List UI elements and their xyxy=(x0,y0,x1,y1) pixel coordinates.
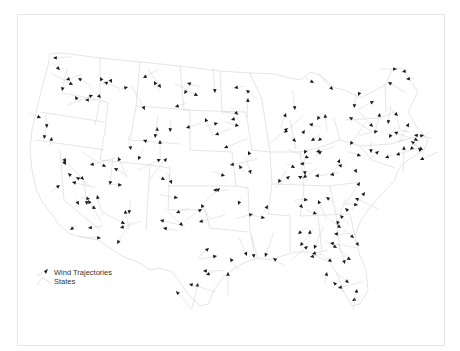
wind-arrow-icon xyxy=(124,210,128,214)
wind-arrow-icon xyxy=(312,251,316,255)
wind-arrow-icon xyxy=(117,240,121,244)
wind-arrow-icon xyxy=(293,106,297,110)
wind-arrow-icon xyxy=(283,113,286,117)
wind-arrow-icon xyxy=(72,181,76,185)
wind-arrow-icon xyxy=(128,210,132,214)
wind-arrow-icon xyxy=(301,130,305,134)
wind-arrow-icon xyxy=(388,82,392,86)
wind-arrow-icon xyxy=(300,162,304,166)
wind-arrow-icon xyxy=(389,134,392,138)
wind-arrow-icon xyxy=(387,120,391,124)
wind-arrow-icon xyxy=(336,221,339,225)
wind-arrow-icon xyxy=(338,164,342,168)
wind-arrow-icon xyxy=(315,174,319,178)
wind-arrow-icon xyxy=(231,117,235,120)
legend-item-wind-trajectories: Wind Trajectories xyxy=(36,268,112,277)
wind-arrow-icon xyxy=(199,219,203,223)
wind-arrow-icon xyxy=(158,140,162,144)
wind-arrow-icon xyxy=(70,226,74,230)
wind-arrow-icon xyxy=(402,146,406,150)
wind-arrow-icon xyxy=(309,123,313,127)
wind-arrow-icon xyxy=(354,289,358,293)
wind-arrow-icon xyxy=(61,87,65,91)
wind-arrow-icon xyxy=(304,198,308,202)
wind-arrow-icon xyxy=(396,152,400,155)
wind-arrow-icon xyxy=(128,146,132,150)
wind-arrow-icon xyxy=(198,209,202,213)
wind-arrow-icon xyxy=(102,163,106,167)
wind-arrow-icon xyxy=(246,98,250,102)
wind-arrow-icon xyxy=(265,253,268,257)
wind-arrow-icon xyxy=(157,84,161,88)
wind-arrow-icon xyxy=(324,272,328,276)
wind-arrow-icon xyxy=(300,242,304,246)
wind-arrow-icon xyxy=(45,124,49,128)
wind-arrow-icon xyxy=(291,165,295,168)
wind-arrow-icon xyxy=(124,86,128,90)
wind-arrow-icon xyxy=(353,104,357,108)
wind-arrow-icon xyxy=(88,226,92,230)
wind-arrow-icon xyxy=(402,69,406,73)
wind-arrow-icon xyxy=(221,173,225,176)
wind-arrow-icon xyxy=(174,196,178,200)
wind-arrow-icon xyxy=(304,246,308,250)
wind-arrow-icon xyxy=(377,113,381,117)
wind-arrow-icon xyxy=(120,225,124,228)
wind-arrow-icon xyxy=(310,79,314,83)
wind-arrow-icon xyxy=(286,176,290,180)
wind-arrow-icon xyxy=(317,116,321,120)
polygon-icon xyxy=(36,277,52,286)
wind-arrow-icon xyxy=(298,230,302,234)
wind-arrow-icon xyxy=(374,130,378,134)
wind-arrow-icon xyxy=(175,104,179,107)
wind-arrow-icon xyxy=(96,195,100,199)
wind-arrow-icon xyxy=(78,78,82,82)
wind-arrow-icon xyxy=(203,269,207,273)
wind-arrow-icon xyxy=(214,122,218,126)
wind-arrow-icon xyxy=(235,123,239,126)
wind-arrow-icon xyxy=(342,260,345,264)
wind-arrow-icon xyxy=(303,171,307,175)
wind-arrow-icon xyxy=(393,67,397,71)
wind-arrow-icon xyxy=(97,236,101,240)
wind-arrow-icon xyxy=(324,114,328,118)
wind-arrow-icon xyxy=(334,232,338,236)
legend-label: Wind Trajectories xyxy=(54,268,112,277)
wind-arrow-icon xyxy=(411,141,415,145)
wind-arrow-icon xyxy=(53,56,57,60)
wind-arrow-icon xyxy=(234,86,238,90)
wind-arrow-icon xyxy=(118,183,122,187)
wind-arrow-icon xyxy=(76,177,80,181)
wind-arrow-icon xyxy=(85,201,89,205)
arrow-icon xyxy=(36,268,52,277)
wind-arrow-icon xyxy=(213,89,217,93)
wind-arrow-icon xyxy=(354,169,357,173)
wind-arrow-icon xyxy=(163,158,167,162)
wind-arrow-icon xyxy=(278,179,282,183)
wind-arrow-icon xyxy=(213,255,217,259)
wind-arrow-icon xyxy=(357,153,361,156)
wind-arrow-icon xyxy=(361,192,365,196)
wind-arrow-icon xyxy=(186,125,190,128)
wind-arrow-icon xyxy=(239,165,243,169)
us-map xyxy=(0,0,460,351)
wind-arrow-icon xyxy=(350,141,354,145)
wind-arrow-icon xyxy=(414,137,418,141)
wind-arrow-icon xyxy=(163,227,167,231)
wind-arrow-icon xyxy=(56,185,60,189)
wind-arrow-icon xyxy=(161,177,165,180)
map-legend: Wind Trajectories States xyxy=(36,268,112,286)
wind-arrow-icon xyxy=(326,197,330,201)
wind-arrow-icon xyxy=(114,168,118,172)
wind-arrow-icon xyxy=(90,162,94,166)
wind-arrow-icon xyxy=(318,137,322,141)
wind-arrow-icon xyxy=(189,283,193,287)
wind-arrow-icon xyxy=(75,96,79,100)
wind-arrow-icon xyxy=(375,151,379,155)
wind-arrow-icon xyxy=(49,137,53,141)
wind-arrow-icon xyxy=(261,215,265,219)
wind-arrow-icon xyxy=(273,258,277,262)
wind-arrow-icon xyxy=(86,197,90,201)
wind-arrow-icon xyxy=(230,258,234,262)
wind-arrow-icon xyxy=(246,90,250,94)
